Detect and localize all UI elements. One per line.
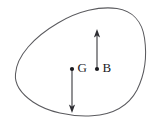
point-label-b: B xyxy=(103,60,112,75)
vector-g xyxy=(69,70,75,114)
figure-canvas: G B xyxy=(0,0,162,123)
diagram-svg: G B xyxy=(0,0,162,123)
vector-b xyxy=(94,29,100,69)
point-dot-b xyxy=(95,67,99,71)
point-label-g: G xyxy=(78,60,87,75)
point-dot-g xyxy=(70,67,74,71)
